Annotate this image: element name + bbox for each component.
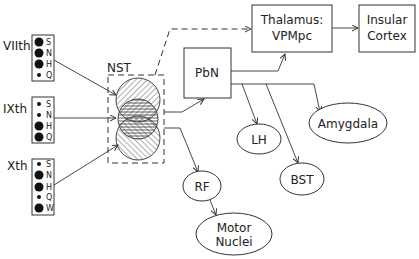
key-letter: Q — [46, 71, 52, 80]
nerve-label-viith: VIIth — [3, 39, 31, 53]
lh-label: LH — [251, 133, 267, 147]
amygdala-label: Amygdala — [318, 117, 378, 131]
insular-label: Insular — [367, 13, 408, 27]
key-letter: S — [46, 160, 51, 169]
xth-key: S N H Q W — [32, 159, 54, 215]
key-letter: N — [46, 111, 52, 120]
nerve-label-ixth: IXth — [3, 102, 27, 116]
thalamus-label: Thalamus: — [260, 13, 324, 27]
viith-key: S N H Q — [32, 35, 54, 81]
key-letter: S — [46, 100, 51, 109]
key-letter: H — [46, 122, 52, 131]
key-letter: W — [46, 204, 54, 213]
key-letter: S — [46, 38, 51, 47]
gustatory-pathway-diagram: VIIth IXth Xth S N H Q S N H Q S N H Q — [0, 0, 419, 259]
ixth-key: S N H Q — [32, 97, 54, 143]
bst-label: BST — [291, 173, 315, 187]
nst-circles — [116, 78, 160, 160]
key-letter: H — [46, 60, 52, 69]
thalamus-label-2: VPMpc — [272, 29, 312, 43]
motor-label-2: Nuclei — [215, 235, 252, 249]
nerve-label-xth: Xth — [7, 159, 28, 173]
motor-label: Motor — [217, 221, 252, 235]
pbn-label: PbN — [195, 66, 219, 80]
nst-label: NST — [107, 61, 132, 75]
key-letter: Q — [46, 193, 52, 202]
insular-label-2: Cortex — [367, 29, 407, 43]
key-letter: Q — [46, 133, 52, 142]
key-letter: H — [46, 183, 52, 192]
rf-label: RF — [194, 180, 209, 194]
key-letter: N — [46, 49, 52, 58]
key-letter: N — [46, 171, 52, 180]
